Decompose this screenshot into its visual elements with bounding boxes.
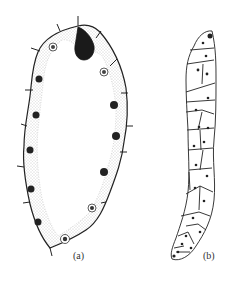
- biological-diagram: [0, 0, 235, 282]
- panel-b-filament: [171, 31, 216, 260]
- panel-a-label: (a): [73, 250, 84, 261]
- cell-nuclei: [172, 34, 212, 258]
- panel-a-cell: [17, 16, 133, 256]
- panel-b-label: (b): [203, 250, 215, 261]
